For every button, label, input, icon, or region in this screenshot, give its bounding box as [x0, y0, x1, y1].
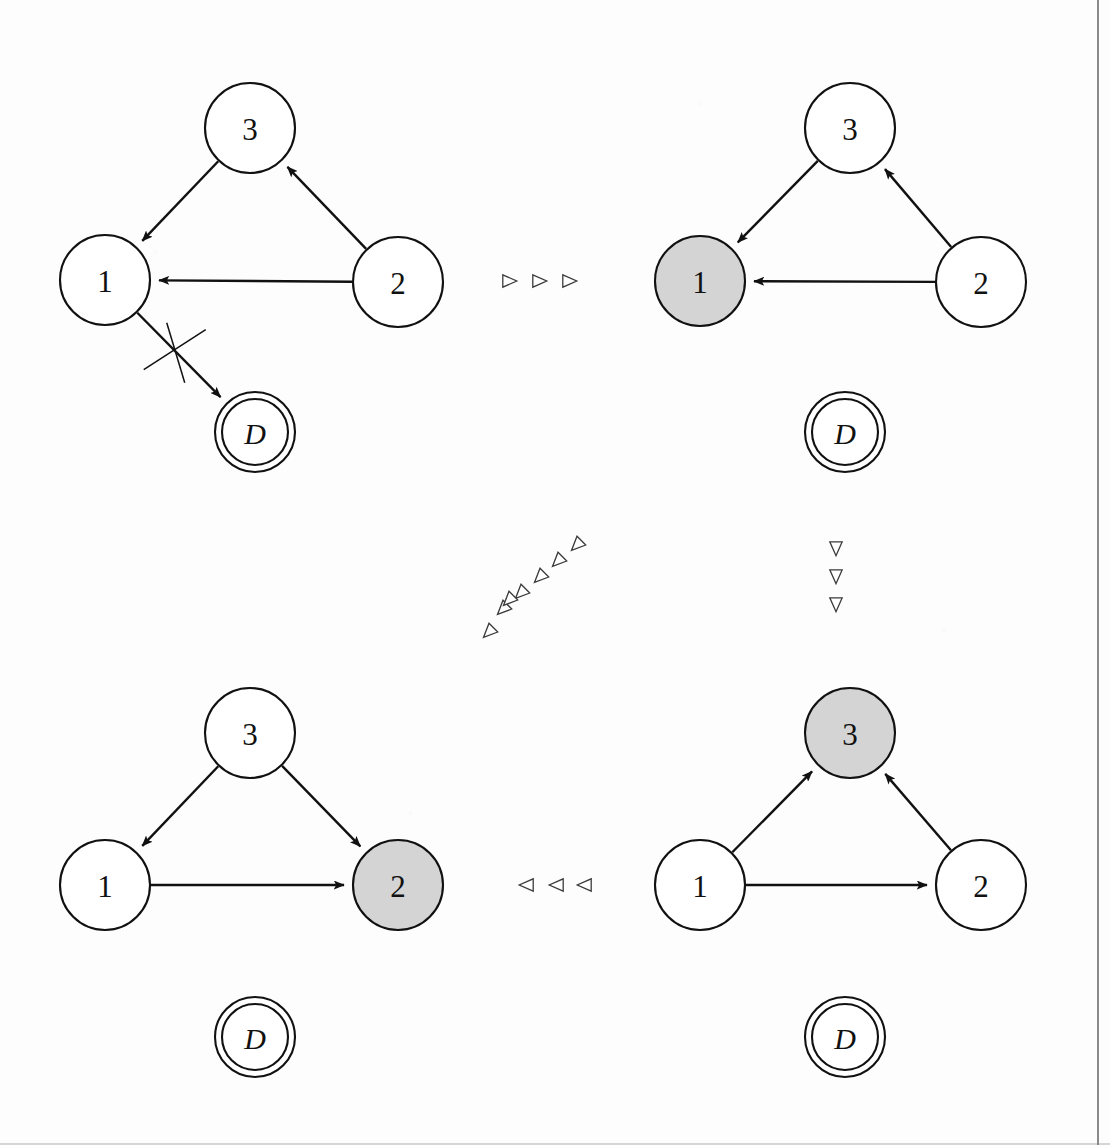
- graph-node-2[interactable]: 2: [936, 237, 1026, 327]
- transition-marker-triangle: [567, 536, 586, 555]
- transition-marker-triangle: [830, 598, 842, 612]
- edge-line-e-2-3: [885, 169, 951, 247]
- nodes-layer: 312D312D312D312D: [60, 83, 1026, 1077]
- graph-edge: [142, 161, 218, 241]
- node-label: 1: [692, 869, 708, 904]
- transition-arrow-down-left: [479, 536, 586, 642]
- transition-marker-triangle: [563, 275, 577, 287]
- edge-line-e-1-3: [732, 771, 812, 852]
- graph-edge: [159, 280, 352, 281]
- transition-marker-triangle: [577, 879, 591, 891]
- edge-line-e-3-1: [142, 161, 218, 241]
- graph-edge: [137, 313, 220, 397]
- graph-node-2[interactable]: 2: [353, 840, 443, 930]
- node-label: D: [833, 417, 856, 450]
- transition-marker-triangle: [548, 552, 567, 571]
- node-label: 2: [390, 869, 406, 904]
- graph-edge: [738, 161, 818, 243]
- node-label: 1: [97, 264, 113, 299]
- graph-node-d[interactable]: D: [805, 392, 885, 472]
- graph-node-d[interactable]: D: [805, 997, 885, 1077]
- graph-edge: [754, 281, 935, 282]
- edge-line-e-2-1: [159, 280, 352, 281]
- diagram-canvas: 312D312D312D312D: [0, 0, 1110, 1145]
- transition-marker-triangle: [503, 275, 517, 287]
- graph-node-2[interactable]: 2: [936, 840, 1026, 930]
- node-label: 3: [842, 112, 858, 147]
- transition-marker-triangle: [830, 570, 842, 584]
- node-label: D: [243, 417, 266, 450]
- transition-marker-triangle: [549, 879, 563, 891]
- node-label: 3: [242, 717, 258, 752]
- graph-node-d[interactable]: D: [215, 392, 295, 472]
- node-label: 3: [842, 717, 858, 752]
- edge-line-e-3-2: [282, 766, 360, 846]
- graph-node-3[interactable]: 3: [205, 688, 295, 778]
- transition-marker-triangle: [533, 275, 547, 287]
- graph-node-d[interactable]: D: [215, 997, 295, 1077]
- graph-node-2[interactable]: 2: [353, 237, 443, 327]
- graph-edge: [142, 766, 218, 846]
- edge-line-e-2-3: [885, 774, 951, 850]
- node-label: D: [243, 1022, 266, 1055]
- node-label: 2: [973, 266, 989, 301]
- graph-edge: [885, 774, 951, 850]
- graph-node-3[interactable]: 3: [805, 688, 895, 778]
- graph-edge: [287, 167, 366, 249]
- graph-edge: [732, 771, 812, 852]
- edge-line-e-3-1: [738, 161, 818, 243]
- node-label: 1: [692, 265, 708, 300]
- node-label: 3: [242, 112, 258, 147]
- graph-node-3[interactable]: 3: [805, 83, 895, 173]
- transition-marker-triangle: [830, 542, 842, 556]
- edge-line-e-2-1: [754, 281, 935, 282]
- node-label: 1: [97, 869, 113, 904]
- transition-marker-triangle: [530, 568, 549, 587]
- graph-node-1[interactable]: 1: [655, 236, 745, 326]
- transition-marker-triangle: [479, 623, 498, 642]
- edge-line-e-2-3: [287, 167, 366, 249]
- transition-marker-triangle: [519, 879, 533, 891]
- transitions-layer: [479, 275, 842, 891]
- edge-line-e-1-D: [137, 313, 220, 397]
- transition-arrow-down: [830, 542, 842, 612]
- node-label: 2: [973, 869, 989, 904]
- graph-node-1[interactable]: 1: [60, 840, 150, 930]
- transition-arrow-left: [519, 879, 591, 891]
- node-label: D: [833, 1022, 856, 1055]
- graph-node-1[interactable]: 1: [60, 235, 150, 325]
- node-label: 2: [390, 266, 406, 301]
- page-edge-right: [1097, 0, 1099, 1145]
- diagram-page: 312D312D312D312D: [0, 0, 1110, 1145]
- graph-edge: [282, 766, 360, 846]
- edge-line-e-3-1: [142, 766, 218, 846]
- transition-arrow-right: [503, 275, 577, 287]
- graph-edge: [885, 169, 951, 247]
- graph-node-1[interactable]: 1: [655, 840, 745, 930]
- graph-node-3[interactable]: 3: [205, 83, 295, 173]
